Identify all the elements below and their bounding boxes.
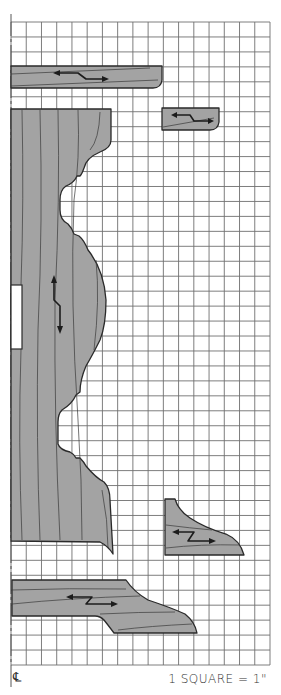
piece-foot — [12, 580, 197, 633]
piece-pedestal-column — [11, 109, 113, 554]
piece-top-shelf — [11, 66, 162, 88]
scale-label: 1 SQUARE = 1" — [168, 672, 267, 686]
piece-small-block — [162, 108, 219, 130]
mortise — [11, 285, 22, 349]
piece-bracket — [165, 499, 244, 555]
centerline-symbol: ℄ — [13, 669, 22, 684]
pattern-diagram — [0, 0, 281, 695]
